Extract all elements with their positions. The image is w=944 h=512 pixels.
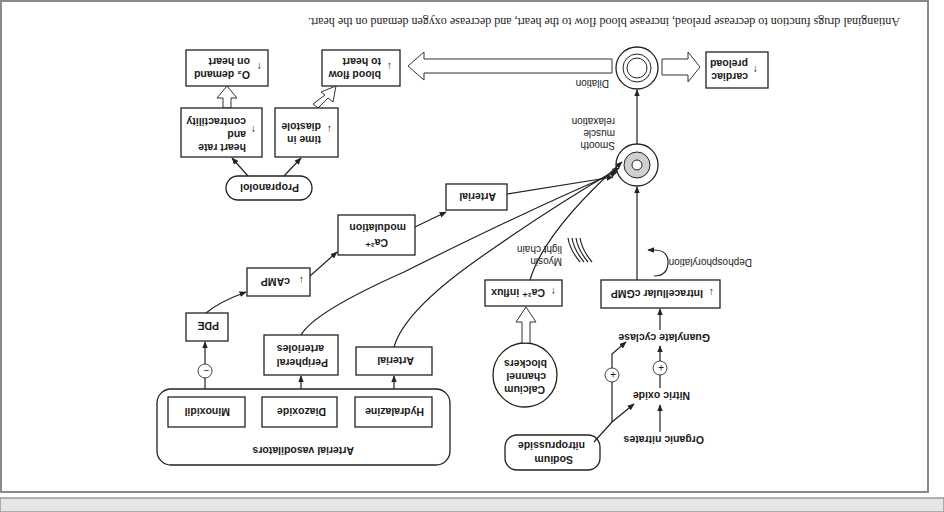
down-arrow-icon: ↓ [327,124,332,136]
guanylate-cyclase-label: Guanylate cyclase [618,332,710,344]
ca-influx-label: Ca²⁺ influx [491,287,545,299]
blood-flow-label-2: to heart [342,56,381,68]
ccb-label-3: blockers [504,358,547,370]
pde-label: PDE [197,320,219,332]
heart-rate-label-3: contractility [186,116,246,128]
up-arrow-icon: ↑ [251,124,256,136]
peripheral-arterioles-label-2: arterioles [277,343,324,355]
ca-modulation-label: Ca²⁺ [365,237,388,249]
vessel-cross-section-icon [616,144,658,186]
ca-modulation-label-2: modulation [349,222,406,234]
ccb-label-2: channel [506,371,546,383]
figure-caption: Antianginal drugs function to decrease p… [308,15,900,29]
plus-sign-2: + [610,369,616,380]
figure-frame [1,1,928,492]
down-arrow-icon: ↓ [709,287,714,299]
diazoxide-label: Diazoxide [277,406,326,418]
heart-rate-label-2: and [227,129,246,141]
sodium-nitroprusside-label-2: nitroprusside [518,440,585,452]
arterial-upper-label: Arterial [459,191,496,203]
hydralazine-label: Hydralazine [365,406,424,418]
cardiac-preload-label: cardiac [711,71,748,83]
minus-sign: − [203,365,209,376]
arterial-vasodilators-title: Arterial vasodilators [252,445,354,457]
o2-demand-label-2: on heart [208,56,250,68]
down-arrow-icon: ↓ [299,275,304,287]
dilation-label: Dilation [576,78,609,89]
nitric-oxide-label: Nitric oxide [633,390,690,402]
bottom-bar [0,498,944,512]
dilated-vessel-icon [616,47,658,89]
antianginal-diagram: Antianginal drugs function to decrease p… [0,0,944,512]
camp-label: cAMP [261,276,290,288]
smooth-muscle-label: Smooth [581,140,615,151]
sodium-nitroprusside-label: Sodium [535,454,574,466]
minoxidil-label: Minoxidil [184,406,230,418]
up-arrow-icon: ↑ [753,64,758,76]
dephosphorylation-label: Dephosphorylation [669,257,752,268]
smooth-muscle-label-3: relaxation [572,116,615,127]
organic-nitrates-label: Organic nitrates [623,434,704,446]
propranolol-label: Propranolol [240,182,299,194]
arterial-lower-label: Arterial [377,355,414,367]
o2-demand-label: O₂ demand [194,69,250,81]
up-arrow-icon: ↑ [551,286,556,298]
ccb-label: Calcium [504,384,545,396]
myosin-label: Myosin [530,256,562,267]
time-diastole-label: time in [287,134,321,146]
smooth-muscle-label-2: muscle [583,128,615,139]
plus-sign: + [658,362,664,373]
peripheral-arterioles-label: Peripheral [277,357,328,369]
down-arrow-icon: ↓ [387,61,392,73]
time-diastole-label-2: diastole [281,121,321,133]
up-arrow-icon: ↑ [257,61,262,73]
diagram-stage: Antianginal drugs function to decrease p… [0,0,944,512]
blood-flow-label: blood flow [328,69,381,81]
heart-rate-label: heart rate [198,142,246,154]
cardiac-preload-label-2: preload [710,58,748,70]
myosin-label-2: light chain [517,244,562,255]
intracellular-cgmp-label: Intracellular cGMP [611,288,703,300]
